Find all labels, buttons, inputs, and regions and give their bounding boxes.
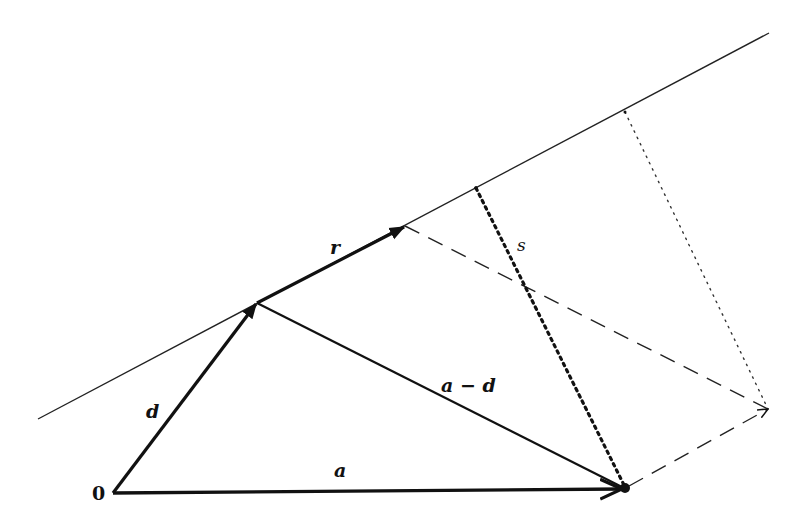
- vector-d: [113, 304, 256, 493]
- label-a-minus-d: a − d: [441, 374, 496, 396]
- point-a-dot: [620, 483, 630, 493]
- line-l: [38, 33, 769, 419]
- vector-a-minus-d: [257, 303, 622, 487]
- point-proj-top: [624, 111, 627, 114]
- segment-s: [476, 188, 625, 487]
- dashed-a-extension: [629, 409, 768, 486]
- vector-diagram: 0 d r s a − d a: [0, 0, 803, 526]
- label-a: a: [334, 459, 346, 481]
- label-origin: 0: [92, 482, 105, 504]
- point-s-foot: [474, 186, 478, 190]
- vector-a: [113, 489, 622, 493]
- label-d: d: [146, 400, 159, 422]
- label-s: s: [517, 235, 526, 255]
- thin-dotted-projection: [625, 112, 768, 409]
- label-r: r: [330, 236, 342, 258]
